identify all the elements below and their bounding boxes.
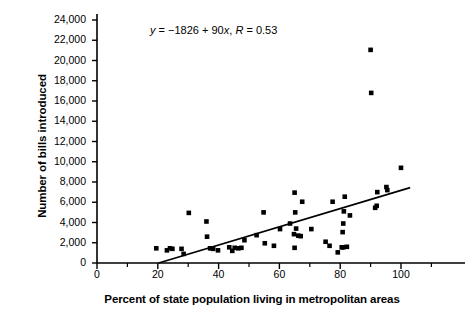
data-point <box>340 230 345 235</box>
data-point <box>154 246 159 251</box>
data-point <box>309 227 314 232</box>
data-point <box>342 209 347 214</box>
data-point <box>368 48 373 53</box>
data-point <box>327 243 332 248</box>
data-point <box>179 247 184 252</box>
data-point <box>374 203 379 208</box>
data-point <box>335 250 340 255</box>
regression-line <box>159 188 410 263</box>
plot-area <box>0 0 475 334</box>
data-point <box>292 190 297 195</box>
data-point <box>272 243 277 248</box>
data-point <box>216 248 221 253</box>
data-point <box>342 194 347 199</box>
data-point <box>170 247 175 252</box>
data-point <box>399 166 404 171</box>
data-point <box>242 238 247 243</box>
data-point <box>345 245 350 250</box>
data-point <box>323 239 328 244</box>
data-point <box>263 241 268 246</box>
data-point <box>294 226 299 231</box>
data-point <box>261 210 266 215</box>
data-point <box>292 232 297 237</box>
data-point <box>375 190 380 195</box>
data-point <box>254 233 259 238</box>
data-point <box>204 219 209 224</box>
data-point <box>348 213 353 218</box>
scatter-chart: Number of bills introduced Percent of st… <box>0 0 475 334</box>
data-point <box>292 246 297 251</box>
data-point <box>278 227 283 232</box>
data-point <box>187 211 192 216</box>
data-point <box>298 234 303 239</box>
data-point <box>293 210 298 215</box>
data-point <box>369 91 374 96</box>
data-point <box>341 221 346 226</box>
data-point <box>239 246 244 251</box>
data-point <box>300 199 305 204</box>
data-point <box>288 221 293 226</box>
data-point <box>330 199 335 204</box>
data-point <box>385 188 390 193</box>
data-point <box>205 234 210 239</box>
data-point <box>181 252 186 257</box>
data-point <box>211 247 216 252</box>
